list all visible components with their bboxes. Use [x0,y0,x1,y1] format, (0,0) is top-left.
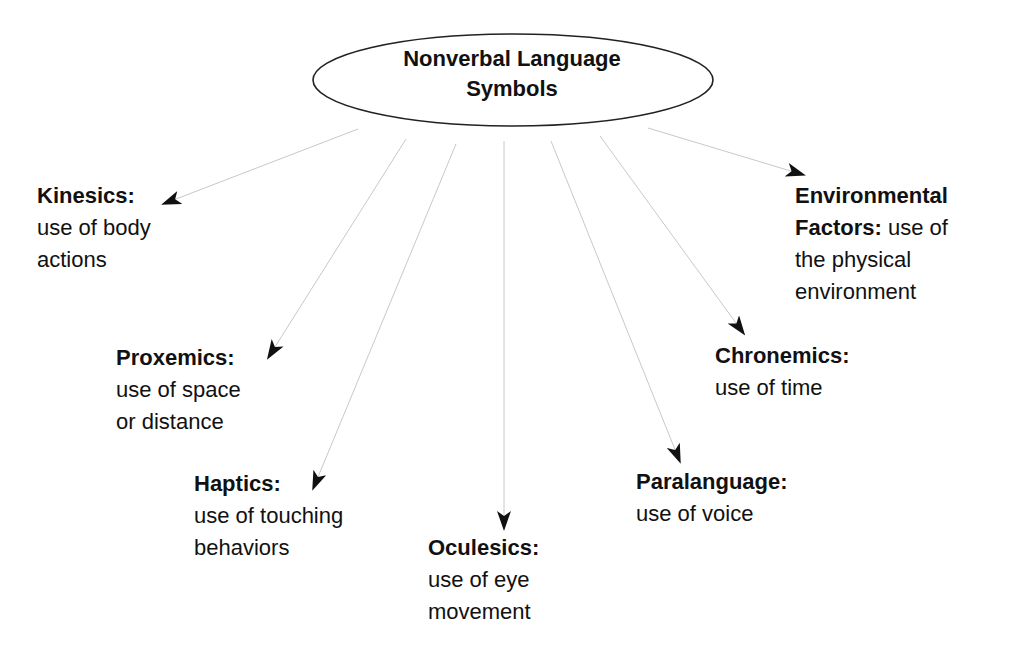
node-haptics-desc-line1: use of touching [194,500,343,532]
node-haptics-term: Haptics: [194,468,343,500]
connector-proxemics [268,139,406,358]
node-oculesics: Oculesics: use of eye movement [428,532,539,628]
node-oculesics-term: Oculesics: [428,532,539,564]
node-proxemics-desc-line2: or distance [116,406,241,438]
node-proxemics-desc-line1: use of space [116,374,241,406]
node-chronemics: Chronemics: use of time [715,340,849,404]
connector-paralanguage [551,141,680,462]
node-environmental-desc-inline: use of [882,215,948,240]
node-kinesics-term: Kinesics: [37,180,151,212]
root-title-line1: Nonverbal Language [312,44,712,74]
root-title-line2: Symbols [312,74,712,104]
node-environmental-term-line2: Factors: [795,215,882,240]
root-title: Nonverbal Language Symbols [312,44,712,104]
node-haptics-desc-line2: behaviors [194,532,343,564]
node-chronemics-term: Chronemics: [715,340,849,372]
node-environmental-desc-line2: environment [795,276,948,308]
connector-environmental [648,128,804,175]
connector-chronemics [600,136,744,334]
node-haptics: Haptics: use of touching behaviors [194,468,343,564]
node-kinesics: Kinesics: use of body actions [37,180,151,276]
node-proxemics: Proxemics: use of space or distance [116,342,241,438]
connector-kinesics [163,129,358,204]
node-kinesics-desc-line1: use of body [37,212,151,244]
node-environmental-desc-line1: the physical [795,244,948,276]
node-paralanguage-term: Paralanguage: [636,466,788,498]
connector-haptics [313,144,456,489]
node-proxemics-term: Proxemics: [116,342,241,374]
node-paralanguage-desc-line1: use of voice [636,498,788,530]
node-environmental: Environmental Factors: use of the physic… [795,180,948,308]
node-kinesics-desc-line2: actions [37,244,151,276]
node-paralanguage: Paralanguage: use of voice [636,466,788,530]
node-oculesics-desc-line1: use of eye [428,564,539,596]
node-environmental-term-line1: Environmental [795,180,948,212]
node-chronemics-desc-line1: use of time [715,372,849,404]
node-oculesics-desc-line2: movement [428,596,539,628]
